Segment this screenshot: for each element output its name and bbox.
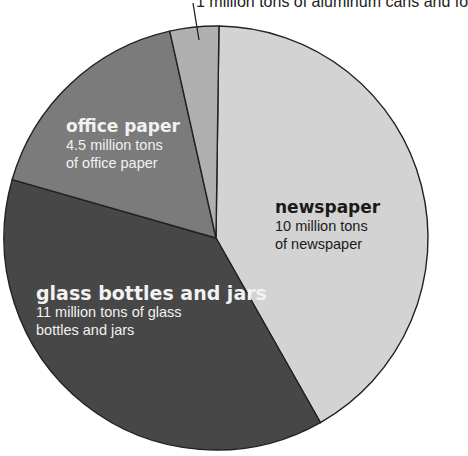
glass-title: glass bottles and jars <box>36 283 267 303</box>
office-paper-desc: 4.5 million tons of office paper <box>66 136 180 172</box>
office-paper-title: office paper <box>66 116 180 136</box>
newspaper-desc: 10 million tons of newspaper <box>275 217 380 253</box>
newspaper-title: newspaper <box>275 197 380 217</box>
newspaper-label: newspaper 10 million tons of newspaper <box>275 197 380 253</box>
glass-desc: 11 million tons of glass bottles and jar… <box>36 303 267 339</box>
aluminum-callout-label: 1 million tons of aluminum cans and fo <box>196 0 468 11</box>
glass-label: glass bottles and jars 11 million tons o… <box>36 283 267 339</box>
office-paper-label: office paper 4.5 million tons of office … <box>66 116 180 172</box>
